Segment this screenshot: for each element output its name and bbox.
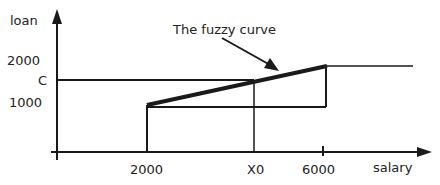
fuzzy-curve-line	[147, 66, 327, 105]
annotation-arrow-icon	[222, 38, 279, 71]
fuzzy-curve-diagram: loan 2000 C 1000 The fuzzy curve 2000 X0…	[0, 0, 440, 185]
lower-bound-box	[147, 66, 326, 152]
y-axis-label: loan	[10, 13, 38, 28]
x-tick-6000: 6000	[302, 162, 335, 177]
annotation-label: The fuzzy curve	[172, 22, 276, 37]
x-axis-arrow-icon	[417, 147, 432, 157]
x-tick-2000: 2000	[130, 162, 163, 177]
y-axis-arrow-icon	[52, 9, 62, 24]
y-axis	[52, 9, 62, 160]
x-tick-x0: X0	[247, 162, 264, 177]
y-tick-2000: 2000	[7, 53, 40, 68]
y-tick-1000: 1000	[9, 95, 42, 110]
y-tick-c: C	[38, 73, 47, 88]
x-axis-label: salary	[373, 160, 413, 175]
x-axis	[51, 146, 432, 157]
